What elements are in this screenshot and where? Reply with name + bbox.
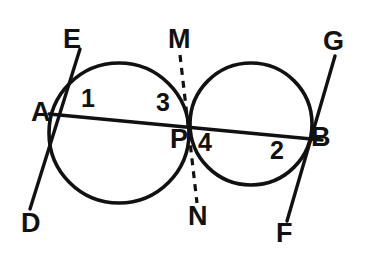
label-angle-4: 4 [198,130,212,155]
geometry-figure: E M G A B P D N F 1 3 4 2 [0,0,367,267]
label-point-d: D [21,210,41,237]
label-point-g: G [323,28,344,55]
label-point-b: B [311,124,331,151]
label-point-e: E [63,26,81,53]
label-angle-1: 1 [81,86,95,111]
label-point-a: A [31,99,51,126]
right-circle [190,63,312,185]
label-point-f: F [276,220,293,247]
label-point-p: P [170,126,188,153]
label-angle-3: 3 [156,90,170,115]
label-point-m: M [168,26,191,53]
label-point-n: N [188,203,208,230]
label-angle-2: 2 [270,138,284,163]
